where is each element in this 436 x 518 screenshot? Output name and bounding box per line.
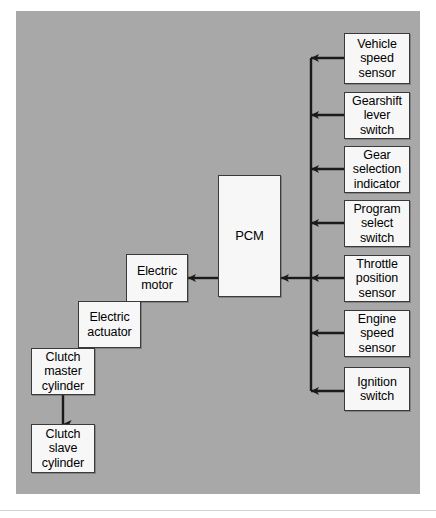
- node-electric-actuator[interactable]: Electric actuator: [78, 301, 141, 348]
- node-vehicle-speed-sensor[interactable]: Vehicle speed sensor: [344, 33, 410, 84]
- node-gearshift-lever-switch[interactable]: Gearshift lever switch: [344, 92, 410, 139]
- node-gear-selection-indicator[interactable]: Gear selection indicator: [344, 146, 410, 193]
- node-engine-speed-sensor[interactable]: Engine speed sensor: [344, 310, 410, 357]
- node-clutch-slave-cylinder[interactable]: Clutch slave cylinder: [31, 424, 95, 473]
- node-ignition-switch[interactable]: Ignition switch: [344, 367, 410, 411]
- footer-divider: [0, 510, 436, 511]
- node-pcm[interactable]: PCM: [218, 175, 281, 297]
- node-program-select-switch[interactable]: Program select switch: [344, 200, 410, 247]
- node-throttle-position-sensor[interactable]: Throttle position sensor: [344, 255, 410, 302]
- node-clutch-master-cylinder[interactable]: Clutch master cylinder: [31, 348, 95, 395]
- node-electric-motor[interactable]: Electric motor: [126, 254, 188, 302]
- diagram-figure: Vehicle speed sensor Gearshift lever swi…: [0, 0, 436, 518]
